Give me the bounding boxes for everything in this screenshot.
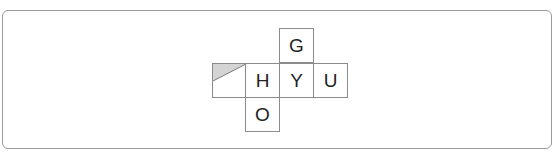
cube-face-y: Y	[279, 63, 314, 98]
face-label: G	[289, 35, 304, 57]
cube-face-o: O	[245, 97, 280, 132]
cube-face-h: H	[245, 63, 280, 98]
cube-face-shaded	[212, 63, 247, 98]
cube-face-g: G	[279, 28, 314, 63]
cube-face-u: U	[313, 63, 348, 98]
face-label: O	[255, 104, 270, 126]
shaded-triangle-icon	[213, 64, 246, 97]
face-label: U	[324, 70, 338, 92]
face-label: Y	[290, 70, 303, 92]
face-label: H	[256, 70, 270, 92]
